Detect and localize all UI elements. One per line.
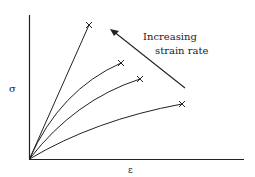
curve-2 bbox=[30, 63, 122, 159]
curve-1 bbox=[30, 25, 90, 159]
x-marker-icon bbox=[137, 76, 143, 82]
x-marker-icon bbox=[118, 60, 124, 66]
annotation-line2: strain rate bbox=[155, 45, 208, 56]
curve-4 bbox=[30, 104, 183, 159]
annotation-line1: Increasing bbox=[143, 31, 197, 42]
stress-strain-diagram: Increasing strain rate σ ε bbox=[0, 0, 255, 177]
x-marker-icon bbox=[86, 22, 92, 28]
curve-3 bbox=[30, 79, 141, 159]
y-axis-label: σ bbox=[9, 83, 16, 94]
x-axis-label: ε bbox=[128, 165, 133, 175]
